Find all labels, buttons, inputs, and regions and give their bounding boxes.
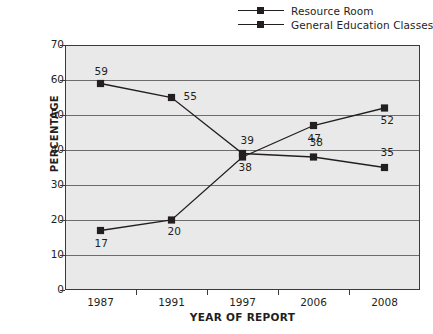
legend-item-resource-room: Resource Room	[238, 4, 433, 17]
legend-label: General Education Classes	[284, 19, 433, 31]
legend-marker-icon	[238, 5, 284, 16]
gridline	[66, 220, 419, 221]
legend-item-general-education-classes: General Education Classes	[238, 18, 433, 31]
gridline	[66, 80, 419, 81]
data-point-label: 55	[184, 90, 197, 102]
gridline	[66, 115, 419, 116]
y-axis-tick-mark	[60, 290, 65, 291]
gridline	[66, 150, 419, 151]
x-axis-tick-label: 1997	[208, 296, 278, 308]
line-chart: Resource Room General Education Classes …	[0, 0, 433, 334]
data-point-label: 35	[381, 146, 394, 158]
y-axis-tick-label: 0	[24, 283, 64, 295]
data-point-label: 39	[241, 134, 254, 146]
gridline	[66, 185, 419, 186]
data-point-label: 59	[95, 65, 108, 77]
data-point-label: 47	[308, 132, 321, 144]
legend-label: Resource Room	[284, 5, 374, 17]
gridline	[66, 255, 419, 256]
x-axis-tick-label: 1987	[66, 296, 136, 308]
chart-legend: Resource Room General Education Classes	[238, 4, 433, 32]
data-point-label: 20	[168, 225, 181, 237]
y-axis-tick-mark	[60, 185, 65, 186]
x-axis-tick-mark	[207, 290, 208, 295]
y-axis-tick-mark	[60, 220, 65, 221]
y-axis-tick-mark	[60, 115, 65, 116]
legend-marker-icon	[238, 19, 284, 30]
y-axis-tick-mark	[60, 45, 65, 46]
x-axis-title: YEAR OF REPORT	[65, 311, 420, 323]
y-axis-tick-label: 20	[24, 213, 64, 225]
y-axis-tick-mark	[60, 255, 65, 256]
data-point-label: 17	[95, 237, 108, 249]
data-point-label: 38	[239, 161, 252, 173]
x-axis-tick-label: 2006	[279, 296, 349, 308]
x-axis-tick-label: 2008	[350, 296, 420, 308]
x-axis-tick-label: 1991	[137, 296, 207, 308]
y-axis-tick-label: 10	[24, 248, 64, 260]
y-axis-title: PERCENTAGE	[49, 74, 60, 194]
data-point-label: 52	[381, 114, 394, 126]
x-axis-tick-mark	[136, 290, 137, 295]
y-axis-tick-label: 70	[24, 38, 64, 50]
x-axis-tick-mark	[349, 290, 350, 295]
y-axis-tick-mark	[60, 80, 65, 81]
y-axis-tick-mark	[60, 150, 65, 151]
x-axis-tick-mark	[278, 290, 279, 295]
